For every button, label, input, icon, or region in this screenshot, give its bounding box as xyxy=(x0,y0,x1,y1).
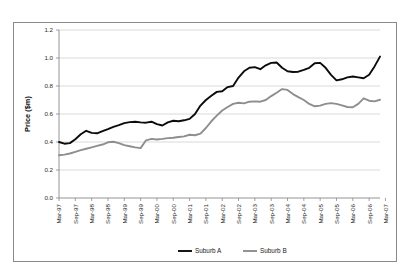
series-line-suburb-a xyxy=(59,57,380,144)
x-tick-label: Sep-99 xyxy=(137,203,144,224)
y-tick-label: 1.2 xyxy=(44,26,53,33)
x-tick-label: Sep-05 xyxy=(333,203,340,224)
y-axis-tick-labels-group: 0.00.20.40.60.81.01.2 xyxy=(44,26,59,201)
y-axis-title: Price ($m) xyxy=(23,96,32,132)
x-tick-label: Sep-04 xyxy=(300,203,307,224)
x-tick-label: Mar-02 xyxy=(219,203,226,223)
x-tick-label: Sep-97 xyxy=(72,203,79,224)
y-tick-label: 0.0 xyxy=(44,194,53,201)
x-tick-label: Sep-02 xyxy=(235,203,242,224)
x-tick-label: Mar-99 xyxy=(121,203,128,223)
chart-legend: Suburb ASuburb B xyxy=(178,247,287,254)
x-tick-label: Mar-03 xyxy=(251,203,258,223)
x-tick-label: Mar-05 xyxy=(317,203,324,223)
x-axis-tick-labels-group: Mar-97Sep-97Mar-98Sep-98Mar-99Sep-99Mar-… xyxy=(55,198,388,224)
gridlines-group xyxy=(59,30,380,170)
x-tick-label: Sep-98 xyxy=(104,203,111,224)
x-tick-label: Sep-03 xyxy=(268,203,275,224)
x-tick-label: Mar-04 xyxy=(284,203,291,223)
x-tick-label: Sep-00 xyxy=(170,203,177,224)
legend-label-suburb-a: Suburb A xyxy=(195,247,222,254)
line-chart: 0.00.20.40.60.81.01.2 Mar-97Sep-97Mar-98… xyxy=(0,0,409,273)
y-tick-label: 0.4 xyxy=(44,138,53,145)
legend-label-suburb-b: Suburb B xyxy=(260,247,287,254)
y-tick-label: 0.2 xyxy=(44,166,53,173)
y-tick-label: 1.0 xyxy=(44,54,53,61)
y-tick-label: 0.6 xyxy=(44,110,53,117)
x-tick-label: Mar-06 xyxy=(349,203,356,223)
x-tick-label: Mar-01 xyxy=(186,203,193,223)
series-line-suburb-b xyxy=(59,89,380,155)
x-tick-label: Mar-97 xyxy=(55,203,62,223)
x-tick-label: Sep-06 xyxy=(366,203,373,224)
x-tick-label: Mar-00 xyxy=(153,203,160,223)
x-tick-label: Mar-07 xyxy=(382,203,389,223)
x-tick-label: Sep-01 xyxy=(202,203,209,224)
y-tick-label: 0.8 xyxy=(44,82,53,89)
x-tick-label: Mar-98 xyxy=(88,203,95,223)
